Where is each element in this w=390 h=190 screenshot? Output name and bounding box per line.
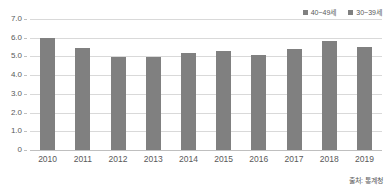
y-axis-tick-label: 0 [18,146,22,154]
bar-chart: 40~49세 30~39세 01.02.03.04.05.06.07.0 201… [0,0,390,190]
x-axis-slot: 2010 [30,151,65,165]
y-axis-tick-label: 1.0 [11,127,22,135]
bar-2018[interactable] [322,41,337,150]
bar-slot [136,19,171,150]
x-axis-tick-label: 2015 [214,151,233,164]
bar-slot [312,19,347,150]
y-axis-tick-mark [24,131,27,132]
x-axis-tick-label: 2010 [38,151,57,164]
legend-label-30-39: 30~39세 [356,9,382,17]
y-axis-tick-label: 3.0 [11,90,22,98]
y-axis-tick-mark [24,94,27,95]
x-axis-tick-label: 2014 [179,151,198,164]
x-axis-slot: 2018 [312,151,347,165]
y-axis-tick-mark [24,150,27,151]
bar-2019[interactable] [357,47,372,150]
legend-label-40-49: 40~49세 [311,9,337,17]
y-axis-tick-label: 5.0 [11,52,22,60]
legend-item-30-39[interactable]: 30~39세 [348,9,382,17]
x-axis-slot: 2011 [65,151,100,165]
y-axis-tick-mark [24,19,27,20]
bar-slot [347,19,382,150]
x-axis-tick-label: 2017 [285,151,304,164]
bar-slot [171,19,206,150]
bars-container [30,19,382,150]
y-axis-tick-label: 4.0 [11,71,22,79]
x-axis-slot: 2016 [241,151,276,165]
x-axis-slot: 2014 [171,151,206,165]
legend-item-40-49[interactable]: 40~49세 [303,9,337,17]
chart-legend: 40~49세 30~39세 [303,7,382,18]
x-axis-slot: 2017 [276,151,311,165]
y-axis-tick-mark [24,56,27,57]
bar-2010[interactable] [40,38,55,150]
y-axis-tick-mark [24,75,27,76]
bar-2013[interactable] [146,57,161,150]
x-axis-tick-label: 2019 [355,151,374,164]
bar-slot [206,19,241,150]
x-axis-slot: 2013 [136,151,171,165]
x-axis: 2010201120122013201420152016201720182019 [30,151,382,165]
x-axis-slot: 2019 [347,151,382,165]
x-axis-tick-label: 2013 [144,151,163,164]
bar-slot [241,19,276,150]
bar-slot [65,19,100,150]
legend-swatch-icon [303,10,308,15]
y-axis-tick-mark [24,113,27,114]
bar-2011[interactable] [75,48,90,150]
bar-2015[interactable] [216,51,231,150]
x-axis-slot: 2015 [206,151,241,165]
source-note: 출처: 통계청 [349,176,383,185]
bar-2017[interactable] [287,49,302,150]
x-axis-tick-label: 2012 [109,151,128,164]
legend-swatch-icon [348,10,353,15]
bar-2012[interactable] [111,57,126,150]
bar-2016[interactable] [251,55,266,150]
x-axis-tick-label: 2016 [249,151,268,164]
bar-2014[interactable] [181,53,196,150]
y-axis: 01.02.03.04.05.06.07.0 [0,19,27,150]
bar-slot [276,19,311,150]
plot-area [30,19,382,150]
x-axis-tick-label: 2011 [74,151,92,164]
y-axis-tick-label: 2.0 [11,109,22,117]
y-axis-tick-label: 6.0 [11,34,22,42]
x-axis-tick-label: 2018 [320,151,339,164]
y-axis-tick-mark [24,38,27,39]
y-axis-tick-label: 7.0 [11,15,22,23]
bar-slot [30,19,65,150]
bar-slot [100,19,135,150]
x-axis-slot: 2012 [100,151,135,165]
